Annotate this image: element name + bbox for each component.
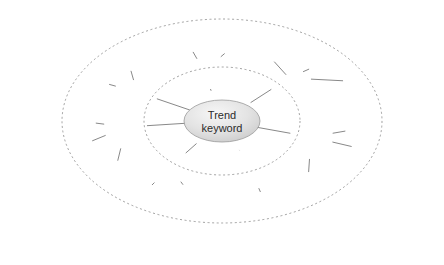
edge-primary-to-secondary-9 [259, 188, 261, 192]
center-node-ellipse [184, 100, 260, 142]
radial-mind-map: Trend keyword [0, 0, 444, 265]
edge-primary-to-secondary-6 [333, 131, 346, 133]
edge-center-to-primary-3 [255, 127, 290, 133]
edge-primary-to-secondary-12 [118, 148, 121, 160]
edge-center-to-primary-2 [251, 89, 272, 102]
edge-primary-to-secondary-15 [109, 84, 116, 86]
edge-primary-to-secondary-2 [221, 54, 225, 57]
edge-center-to-primary-5 [186, 144, 197, 154]
diagram-canvas: Trend keyword [0, 0, 444, 265]
edge-primary-to-secondary-10 [181, 182, 183, 185]
edge-primary-to-secondary-5 [311, 79, 343, 81]
edge-primary-to-secondary-11 [152, 183, 154, 185]
edge-primary-to-secondary-4 [303, 69, 309, 72]
edge-primary-to-secondary-13 [92, 135, 105, 141]
edge-primary-to-secondary-7 [332, 142, 351, 147]
edge-center-to-primary-1 [210, 89, 211, 91]
center-node-label-line1: Trend [208, 109, 236, 121]
edge-primary-to-secondary-1 [193, 52, 197, 59]
center-node-label-line2: keyword [202, 122, 243, 134]
edge-primary-to-secondary-16 [131, 71, 134, 80]
edge-center-to-primary-6 [147, 123, 188, 126]
edge-primary-to-secondary-14 [96, 123, 104, 124]
edge-center-to-primary-7 [157, 99, 190, 110]
edge-primary-to-secondary-8 [309, 159, 310, 172]
edge-primary-to-secondary-3 [274, 62, 286, 75]
center-node-trend-keyword[interactable]: Trend keyword [184, 100, 260, 142]
